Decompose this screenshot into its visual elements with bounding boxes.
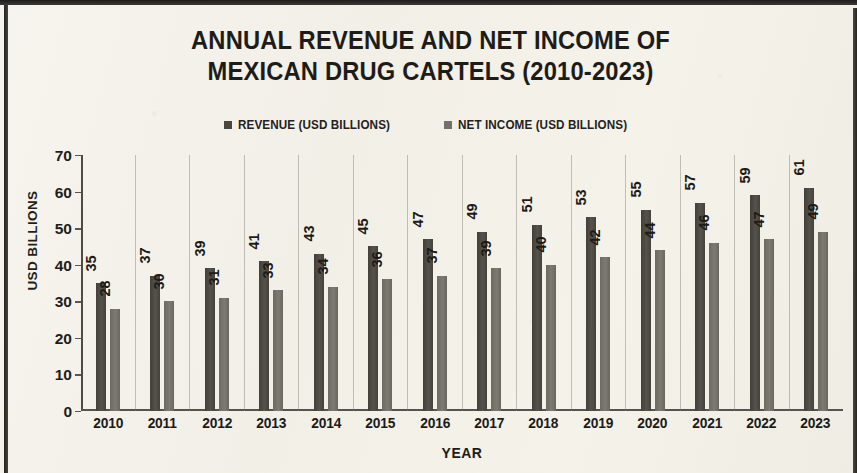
bar-group-2013: 4133 — [245, 155, 300, 411]
legend-item-revenue[interactable]: REVENUE (USD BILLIONS) — [224, 118, 398, 132]
bar-rect: 33 — [273, 290, 283, 411]
bar-group-2018: 5140 — [517, 155, 572, 411]
y-axis-tick-70: 70 — [25, 147, 81, 165]
y-axis-tick-60: 60 — [25, 184, 81, 202]
x-axis-tick-label-2011: 2011 — [137, 415, 189, 431]
bar-group-2016: 4737 — [408, 155, 463, 411]
bar-data-label: 47 — [411, 211, 426, 227]
x-axis-tick-label-2021: 2021 — [681, 415, 733, 431]
page-frame-top-edge — [0, 0, 857, 5]
bar-net-income-2013[interactable]: 33 — [273, 290, 283, 411]
y-axis-tick-mark — [75, 411, 81, 412]
legend-swatch-net-income — [444, 121, 452, 129]
bar-net-income-2020[interactable]: 44 — [655, 250, 665, 411]
chart-legend: REVENUE (USD BILLIONS) NET INCOME (USD B… — [8, 118, 853, 132]
bar-rect: 39 — [491, 268, 501, 411]
y-axis-tick-30: 30 — [25, 293, 81, 311]
bar-rect: 45 — [368, 246, 378, 411]
bar-data-label: 42 — [589, 229, 604, 245]
bar-rect: 35 — [96, 283, 106, 411]
bar-rect: 37 — [437, 276, 447, 411]
x-axis-tick-label-2019: 2019 — [572, 415, 624, 431]
bar-rect: 55 — [641, 210, 651, 411]
bar-net-income-2011[interactable]: 30 — [164, 301, 174, 411]
bar-data-label: 49 — [807, 204, 822, 220]
bar-data-label: 35 — [84, 255, 99, 271]
bar-revenue-2011[interactable]: 37 — [150, 276, 160, 411]
bar-revenue-2023[interactable]: 61 — [804, 188, 814, 411]
bar-group-2017: 4939 — [463, 155, 518, 411]
x-axis-tick-label-2016: 2016 — [409, 415, 461, 431]
bar-rect: 34 — [328, 287, 338, 411]
bar-group-2010: 3528 — [81, 155, 136, 411]
bar-data-label: 37 — [425, 248, 440, 264]
bar-rect: 49 — [818, 232, 828, 411]
bar-net-income-2017[interactable]: 39 — [491, 268, 501, 411]
bar-revenue-2020[interactable]: 55 — [641, 210, 651, 411]
bar-data-label: 41 — [248, 233, 263, 249]
bar-net-income-2022[interactable]: 47 — [764, 239, 774, 411]
bar-net-income-2014[interactable]: 34 — [328, 287, 338, 411]
legend-item-net-income[interactable]: NET INCOME (USD BILLIONS) — [444, 118, 636, 132]
bar-net-income-2018[interactable]: 40 — [546, 265, 556, 411]
bar-revenue-2016[interactable]: 47 — [423, 239, 433, 411]
bar-group-2019: 5342 — [572, 155, 627, 411]
y-axis-tick-mark — [75, 228, 81, 229]
bar-revenue-2012[interactable]: 39 — [205, 268, 215, 411]
bar-net-income-2023[interactable]: 49 — [818, 232, 828, 411]
bar-rect: 42 — [600, 257, 610, 411]
bar-rect: 43 — [314, 254, 324, 411]
bar-rect: 53 — [586, 217, 596, 411]
bar-rect: 57 — [695, 203, 705, 411]
bar-data-label: 51 — [520, 196, 535, 212]
legend-swatch-revenue — [224, 121, 232, 129]
bar-group-2020: 5544 — [626, 155, 681, 411]
x-axis-tick-label-2018: 2018 — [518, 415, 570, 431]
bar-data-label: 39 — [480, 240, 495, 256]
bar-rect: 40 — [546, 265, 556, 411]
bar-net-income-2015[interactable]: 36 — [382, 279, 392, 411]
bar-net-income-2012[interactable]: 31 — [219, 298, 229, 411]
bar-group-2023: 6149 — [790, 155, 844, 411]
y-axis-tick-10: 10 — [25, 366, 81, 384]
bar-net-income-2016[interactable]: 37 — [437, 276, 447, 411]
bar-revenue-2022[interactable]: 59 — [750, 195, 760, 411]
bar-data-label: 45 — [357, 218, 372, 234]
bar-group-2022: 5947 — [735, 155, 790, 411]
bar-rect: 30 — [164, 301, 174, 411]
bar-data-label: 43 — [302, 226, 317, 242]
bar-net-income-2021[interactable]: 46 — [709, 243, 719, 411]
bar-chart: ANNUAL REVENUE AND NET INCOME OF MEXICAN… — [8, 7, 853, 473]
x-axis-title: YEAR — [81, 445, 843, 461]
bar-data-label: 55 — [629, 182, 644, 198]
bar-data-label: 46 — [698, 215, 713, 231]
bar-revenue-2019[interactable]: 53 — [586, 217, 596, 411]
legend-label-net-income: NET INCOME (USD BILLIONS) — [458, 118, 627, 132]
y-axis-tick-0: 0 — [25, 403, 81, 421]
bar-rect: 28 — [110, 309, 120, 411]
bar-data-label: 39 — [193, 240, 208, 256]
bar-rect: 37 — [150, 276, 160, 411]
bar-revenue-2010[interactable]: 35 — [96, 283, 106, 411]
bar-group-2015: 4536 — [354, 155, 409, 411]
bar-revenue-2013[interactable]: 41 — [259, 261, 269, 411]
bar-rect: 47 — [764, 239, 774, 411]
chart-title: ANNUAL REVENUE AND NET INCOME OF MEXICAN… — [38, 25, 824, 87]
bar-groups: 3528373039314133433445364737493951405342… — [81, 155, 843, 411]
bar-revenue-2014[interactable]: 43 — [314, 254, 324, 411]
bar-revenue-2017[interactable]: 49 — [477, 232, 487, 411]
y-axis-tick-mark — [75, 338, 81, 339]
bar-revenue-2021[interactable]: 57 — [695, 203, 705, 411]
bar-revenue-2015[interactable]: 45 — [368, 246, 378, 411]
bar-net-income-2010[interactable]: 28 — [110, 309, 120, 411]
bar-data-label: 59 — [738, 167, 753, 183]
x-axis-tick-label-2015: 2015 — [354, 415, 406, 431]
bar-net-income-2019[interactable]: 42 — [600, 257, 610, 411]
x-axis-tick-label-2010: 2010 — [82, 415, 134, 431]
bar-data-label: 57 — [684, 174, 699, 190]
x-axis-tick-label-2012: 2012 — [191, 415, 243, 431]
bar-data-label: 30 — [153, 273, 168, 289]
bar-data-label: 37 — [139, 248, 154, 264]
bar-rect: 31 — [219, 298, 229, 411]
bar-group-2012: 3931 — [190, 155, 245, 411]
